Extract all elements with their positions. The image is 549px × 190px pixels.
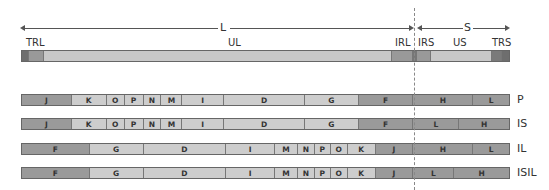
S-arrow-line-right	[473, 28, 506, 29]
segment-L: L	[413, 119, 459, 129]
row-label: ISIL	[517, 167, 537, 179]
UL-segment	[44, 51, 393, 61]
row-bar-p: JKOPNMIDGFHL	[21, 94, 510, 106]
TRS-dark-segment	[502, 51, 509, 61]
segment-N: N	[298, 144, 315, 154]
TRL-label: TRL	[26, 37, 45, 49]
segment-L: L	[473, 95, 509, 105]
segment-G: G	[90, 144, 144, 154]
segment-D: D	[224, 119, 305, 129]
TRL-dark-segment	[22, 51, 29, 61]
segment-H: H	[459, 119, 509, 129]
segment-N: N	[144, 119, 162, 129]
segment-O: O	[331, 144, 348, 154]
segment-I: I	[182, 119, 224, 129]
segment-H: H	[413, 95, 473, 105]
segment-P: P	[315, 144, 331, 154]
US-label: US	[453, 37, 467, 49]
IR-boundary-line	[414, 8, 415, 190]
segment-F: F	[359, 119, 414, 129]
segment-F: F	[22, 144, 90, 154]
segment-I: I	[226, 168, 275, 178]
UL-label: UL	[228, 37, 241, 49]
US-segment	[431, 51, 492, 61]
row-bar-is: JKOPNMIDGFLH	[21, 118, 510, 130]
segment-O: O	[107, 119, 125, 129]
row-label: IS	[517, 118, 527, 130]
segment-M: M	[161, 95, 182, 105]
segment-F: F	[359, 95, 414, 105]
segment-F: F	[22, 168, 90, 178]
overview-bar	[21, 50, 510, 62]
segment-N: N	[298, 168, 315, 178]
IRL-segment	[392, 51, 413, 61]
segment-D: D	[224, 95, 305, 105]
S-arrow-line-left	[421, 28, 463, 29]
segment-H: H	[413, 144, 473, 154]
segment-P: P	[315, 168, 331, 178]
arrow-left-icon	[20, 25, 25, 31]
IRS-segment	[417, 51, 431, 61]
L-arrow-line-left	[22, 28, 218, 29]
segment-G: G	[305, 119, 359, 129]
segment-M: M	[275, 168, 298, 178]
segment-P: P	[125, 95, 144, 105]
row-bar-isil: FGDIMNPOKJLH	[21, 167, 510, 179]
row-label: P	[517, 94, 524, 106]
L-arrow-line-right	[230, 28, 410, 29]
segment-L: L	[473, 144, 509, 154]
segment-D: D	[144, 144, 227, 154]
segment-M: M	[275, 144, 298, 154]
segment-G: G	[90, 168, 144, 178]
IRL-label: IRL	[395, 37, 410, 49]
segment-N: N	[144, 95, 162, 105]
segment-K: K	[348, 144, 376, 154]
segment-D: D	[144, 168, 227, 178]
segment-K: K	[72, 95, 107, 105]
arrow-right-icon	[505, 25, 510, 31]
segment-J: J	[376, 168, 414, 178]
segment-H: H	[454, 168, 509, 178]
TRS-label: TRS	[492, 37, 511, 49]
row-bar-il: FGDIMNPOKJHL	[21, 143, 510, 155]
segment-J: J	[22, 95, 72, 105]
TRS-segment	[492, 51, 502, 61]
segment-L: L	[413, 168, 454, 178]
TRL-segment	[29, 51, 44, 61]
IRS-label: IRS	[418, 37, 434, 49]
segment-K: K	[348, 168, 376, 178]
S-label: S	[464, 22, 471, 34]
segment-J: J	[22, 119, 72, 129]
segment-G: G	[305, 95, 359, 105]
segment-M: M	[161, 119, 182, 129]
segment-I: I	[226, 144, 275, 154]
segment-P: P	[125, 119, 144, 129]
row-label: IL	[517, 143, 526, 155]
segment-I: I	[182, 95, 224, 105]
segment-O: O	[107, 95, 125, 105]
segment-K: K	[72, 119, 107, 129]
segment-O: O	[331, 168, 348, 178]
L-label: L	[220, 22, 226, 34]
segment-J: J	[376, 144, 414, 154]
